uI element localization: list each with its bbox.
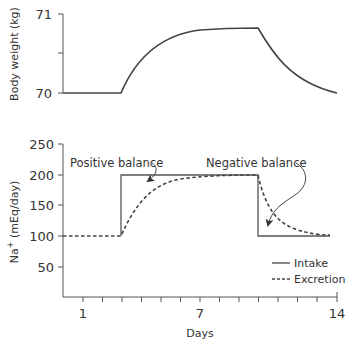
sodium-chart: 250 200 150 100 50 Na+ (mEq/day) 1 [6,137,345,340]
legend: Intake Excretion [272,257,345,286]
top-y-axis-label: Body weight (kg) [8,7,21,101]
x-axis-label: Days [186,327,214,340]
x-tick-label-14: 14 [329,306,346,321]
top-y-tick-label-70: 70 [35,86,52,101]
legend-excretion-label: Excretion [294,273,345,286]
x-tick-label-1: 1 [79,306,87,321]
body-weight-chart: 71 70 Body weight (kg) [8,7,337,101]
ylabel-units: (mEq/day) [8,181,21,242]
ylabel-plus: + [6,241,15,248]
bottom-y-axis-label: Na+ (mEq/day) [6,181,21,263]
top-y-tick-label-71: 71 [35,7,52,22]
intake-line [121,175,330,236]
legend-intake-label: Intake [294,257,328,270]
negative-balance-arrow [268,163,306,225]
y-tick-label-250: 250 [29,137,54,152]
sodium-balance-figure: 71 70 Body weight (kg) 250 200 150 100 5… [0,0,355,350]
y-tick-label-100: 100 [29,229,54,244]
body-weight-line [63,28,337,93]
negative-balance-label: Negative balance [206,156,307,170]
y-tick-label-200: 200 [29,168,54,183]
x-tick-label-7: 7 [196,306,204,321]
excretion-line [63,175,330,236]
y-tick-label-50: 50 [37,260,54,275]
y-tick-label-150: 150 [29,198,54,213]
ylabel-na: Na [8,248,21,263]
positive-balance-label: Positive balance [70,156,163,170]
